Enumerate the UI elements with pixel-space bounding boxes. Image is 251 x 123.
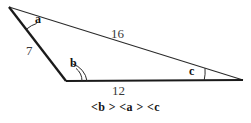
side-16-line xyxy=(9,7,243,80)
side-label-16: 16 xyxy=(111,27,124,40)
angle-c-arc xyxy=(204,68,205,80)
angle-label-b: b xyxy=(70,57,77,69)
angle-label-a: a xyxy=(35,13,41,25)
angle-label-c: c xyxy=(189,65,194,77)
triangle-figure: 16 7 12 a b c <b > <a > <c xyxy=(0,0,251,123)
side-label-7: 7 xyxy=(26,44,33,57)
side-12-line xyxy=(66,80,243,81)
side-label-12: 12 xyxy=(112,84,125,97)
angle-comparison-caption: <b > <a > <c xyxy=(0,100,251,115)
angle-b-arc xyxy=(76,68,82,81)
